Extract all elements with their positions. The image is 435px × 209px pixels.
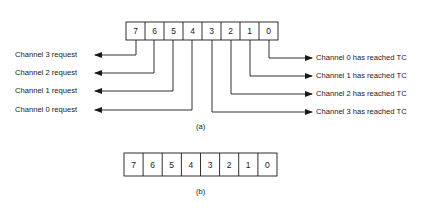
label-channel-3-request: Channel 3 request xyxy=(15,51,77,59)
label-channel-3-tc: Channel 3 has reached TC xyxy=(316,108,407,116)
bit-4-cell: 4 xyxy=(181,153,200,176)
caption-b: (b) xyxy=(196,188,205,196)
bit-3-cell: 3 xyxy=(201,153,220,176)
bit-3-cell: 3 xyxy=(202,22,221,40)
bit-5-cell: 5 xyxy=(162,153,181,176)
bit-7-cell: 7 xyxy=(124,153,143,176)
bit-0-cell: 0 xyxy=(258,153,277,176)
label-channel-0-tc: Channel 0 has reached TC xyxy=(316,54,407,62)
bit-7-cell: 7 xyxy=(126,22,145,40)
label-channel-2-tc: Channel 2 has reached TC xyxy=(316,90,407,98)
bit-5-cell: 5 xyxy=(164,22,183,40)
label-channel-1-request: Channel 1 request xyxy=(15,87,77,95)
caption-a: (a) xyxy=(196,123,205,131)
label-channel-2-request: Channel 2 request xyxy=(15,69,77,77)
bit-6-cell: 6 xyxy=(145,22,164,40)
label-channel-1-tc: Channel 1 has reached TC xyxy=(316,72,407,80)
bit-4-cell: 4 xyxy=(183,22,202,40)
bit-6-cell: 6 xyxy=(143,153,162,176)
bit-2-cell: 2 xyxy=(220,153,239,176)
label-channel-0-request: Channel 0 request xyxy=(15,106,77,114)
bit-1-cell: 1 xyxy=(239,153,258,176)
bit-2-cell: 2 xyxy=(221,22,240,40)
bit-1-cell: 1 xyxy=(240,22,259,40)
bit-0-cell: 0 xyxy=(259,22,278,40)
